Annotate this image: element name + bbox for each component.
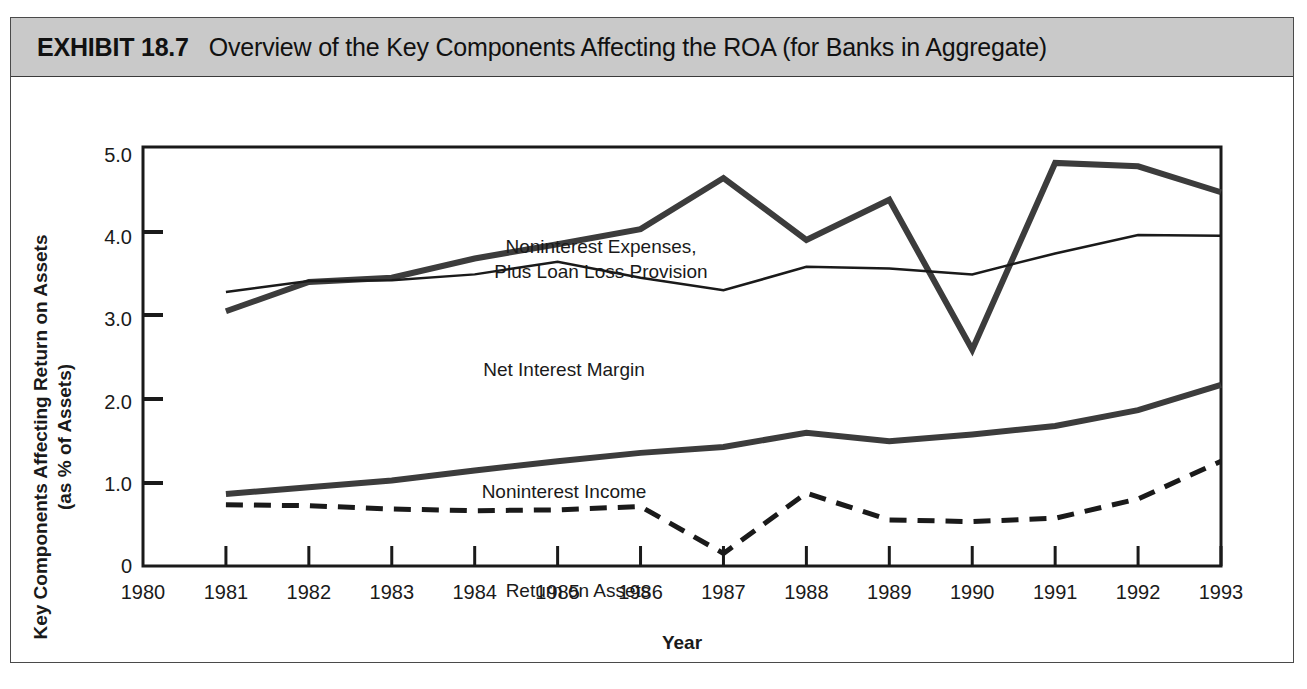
series-line-1: [226, 235, 1221, 292]
x-tick-label-1990: 1990: [950, 581, 995, 603]
series-line-0: [226, 163, 1221, 350]
x-axis-title: Year: [662, 632, 703, 653]
series-annotation-1: Plus Loan Loss Provision: [494, 261, 707, 282]
x-tick-label-1987: 1987: [701, 581, 746, 603]
x-tick-label-1983: 1983: [370, 581, 415, 603]
x-tick-label-1992: 1992: [1116, 581, 1161, 603]
x-axis-ticks-and-labels: 1980198119821983198419851986198719881989…: [121, 546, 1244, 603]
y-tick-label-1: 1.0: [104, 473, 132, 495]
x-tick-label-1993: 1993: [1199, 581, 1244, 603]
chart-plot-area: Key Components Affecting Return on Asset…: [11, 77, 1293, 663]
x-tick-label-1984: 1984: [452, 581, 497, 603]
series-line-3: [226, 461, 1221, 553]
x-tick-label-1982: 1982: [287, 581, 332, 603]
x-tick-label-1981: 1981: [204, 581, 249, 603]
x-tick-label-1980: 1980: [121, 581, 166, 603]
series-annotation-4: Return on Assets: [506, 580, 651, 601]
plot-frame: [143, 147, 1221, 566]
exhibit-number-label: EXHIBIT 18.7: [37, 33, 189, 62]
roa-components-line-chart: Key Components Affecting Return on Asset…: [11, 77, 1293, 663]
series-annotation-0: Noninterest Expenses,: [505, 236, 696, 257]
y-tick-label-4: 4.0: [104, 226, 132, 248]
y-tick-label-2: 2.0: [104, 391, 132, 413]
series-annotations-group: Noninterest Expenses,Plus Loan Loss Prov…: [482, 236, 708, 601]
series-annotation-2: Net Interest Margin: [483, 359, 645, 380]
series-line-2: [226, 385, 1221, 494]
series-annotation-3: Noninterest Income: [482, 481, 647, 502]
y-axis-title-line1: Key Components Affecting Return on Asset…: [30, 234, 51, 639]
exhibit-frame: EXHIBIT 18.7 Overview of the Key Compone…: [10, 17, 1294, 663]
y-axis-title-line2: (as % of Assets): [54, 364, 75, 510]
x-tick-label-1988: 1988: [784, 581, 829, 603]
exhibit-header: EXHIBIT 18.7 Overview of the Key Compone…: [11, 18, 1293, 77]
y-tick-label-0: 0: [121, 555, 132, 577]
x-tick-label-1991: 1991: [1033, 581, 1078, 603]
exhibit-title: Overview of the Key Components Affecting…: [209, 33, 1047, 62]
y-axis-ticks: [143, 232, 163, 483]
data-series-group: [226, 163, 1221, 554]
y-tick-label-5: 5.0: [104, 144, 132, 166]
y-tick-label-3: 3.0: [104, 308, 132, 330]
x-tick-label-1989: 1989: [867, 581, 912, 603]
